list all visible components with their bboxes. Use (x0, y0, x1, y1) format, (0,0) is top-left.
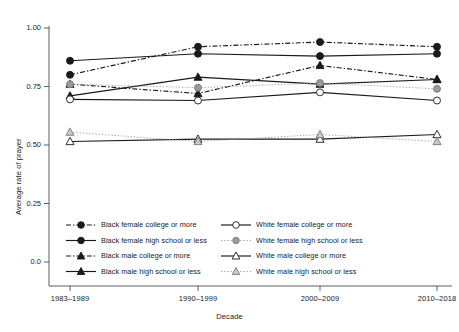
series-1 (70, 54, 437, 61)
legend-label[interactable]: Black female high school or less (101, 236, 207, 245)
data-point-circle (434, 97, 441, 104)
series-2 (70, 65, 437, 93)
data-point-circle (67, 81, 74, 88)
legend-marker-circle (78, 237, 85, 244)
data-point-circle (195, 97, 202, 104)
data-point-circle (317, 53, 324, 60)
data-point-circle (67, 57, 74, 64)
legend-label[interactable]: White female college or more (256, 220, 352, 229)
data-point-triangle (316, 61, 324, 68)
data-point-circle (195, 43, 202, 50)
legend-label[interactable]: Black male high school or less (101, 267, 201, 276)
x-tick-label: 1983–1989 (42, 294, 98, 303)
legend-label[interactable]: White female high school or less (256, 236, 363, 245)
y-tick-label: 0.50 (26, 140, 41, 149)
data-point-circle (195, 50, 202, 57)
legend-marker-triangle (232, 268, 240, 275)
legend-marker-circle (233, 237, 240, 244)
data-point-triangle (66, 128, 74, 135)
series-4 (70, 92, 437, 100)
y-axis-title: Average rate of prayer (14, 138, 23, 215)
data-point-triangle (194, 73, 202, 80)
legend-label[interactable]: Black female college or more (101, 220, 197, 229)
chart-figure: 0.00.250.500.751.001983–19891990–1999200… (0, 0, 459, 332)
data-point-circle (434, 85, 441, 92)
x-tick-label: 2000–2009 (292, 294, 348, 303)
series-6 (70, 134, 437, 141)
legend-item[interactable] (221, 237, 251, 244)
series-3 (70, 77, 437, 96)
y-tick-label: 1.00 (26, 23, 41, 32)
legend-marker-circle (233, 222, 240, 229)
legend-item[interactable] (66, 237, 96, 244)
chart-canvas (0, 0, 459, 332)
data-point-triangle (316, 130, 324, 137)
y-tick-label: 0.0 (31, 257, 41, 266)
series-0 (70, 42, 437, 75)
series-line (70, 42, 437, 75)
series-line (70, 92, 437, 100)
series-line (70, 134, 437, 141)
legend-item[interactable] (221, 222, 251, 229)
x-axis-title: Decade (0, 312, 459, 321)
x-tick-label: 2010–2018 (409, 294, 459, 303)
y-tick-label: 0.25 (26, 199, 41, 208)
series-line (70, 65, 437, 93)
x-tick-label: 1990–1999 (170, 294, 226, 303)
series-line (70, 54, 437, 61)
series-line (70, 77, 437, 96)
data-point-circle (434, 50, 441, 57)
legend-item[interactable] (221, 268, 251, 275)
data-point-circle (434, 43, 441, 50)
legend-label[interactable]: White male high school or less (256, 267, 356, 276)
data-point-circle (67, 96, 74, 103)
legend-item[interactable] (66, 268, 96, 275)
legend-marker-circle (78, 222, 85, 229)
data-point-circle (195, 84, 202, 91)
series-markers-1 (67, 50, 441, 64)
data-point-circle (317, 39, 324, 46)
data-point-circle (317, 89, 324, 96)
data-point-circle (67, 71, 74, 78)
legend-item[interactable] (66, 222, 96, 229)
legend-item[interactable] (221, 252, 251, 259)
legend-item[interactable] (66, 252, 96, 259)
series-markers-6 (66, 130, 441, 144)
series-markers-2 (66, 61, 441, 96)
legend-label[interactable]: Black male college or more (101, 251, 190, 260)
legend-label[interactable]: White male college or more (256, 251, 346, 260)
data-point-circle (317, 79, 324, 86)
y-tick-label: 0.75 (26, 82, 41, 91)
